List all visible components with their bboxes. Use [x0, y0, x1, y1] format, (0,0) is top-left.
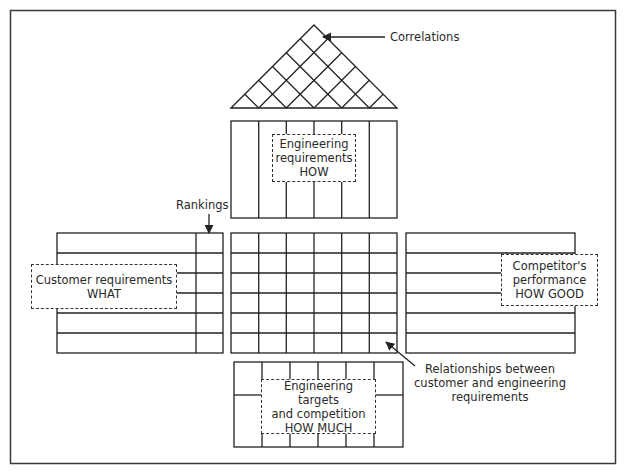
engineering-targets-line-1: Engineering targets [262, 379, 375, 407]
customer-requirements-line-2: WHAT [87, 287, 121, 301]
relationship-matrix [231, 233, 397, 353]
relationships-line-3: requirements [410, 390, 570, 404]
house-of-quality-diagram: Correlations Rankings Relationships betw… [0, 0, 626, 472]
relationships-line-1: Relationships between [410, 362, 570, 376]
engineering-requirements-line-3: HOW [299, 165, 328, 179]
customer-requirements-line-1: Customer requirements [36, 273, 172, 287]
engineering-requirements-line-2: requirements [276, 151, 353, 165]
competitors-performance-line-2: performance [513, 273, 587, 287]
engineering-requirements-line-1: Engineering [280, 137, 349, 151]
customer-requirements-box: Customer requirements WHAT [31, 264, 177, 309]
engineering-targets-line-3: HOW MUCH [285, 421, 353, 435]
correlations-label: Correlations [390, 30, 459, 44]
rankings-label: Rankings [176, 198, 229, 212]
engineering-targets-box: Engineering targets and competition HOW … [261, 379, 376, 434]
relationships-label: Relationships between customer and engin… [410, 362, 570, 404]
competitors-performance-line-3: HOW GOOD [515, 287, 584, 301]
engineering-targets-line-2: and competition [272, 407, 366, 421]
relationships-line-2: customer and engineering [410, 376, 570, 390]
engineering-requirements-box: Engineering requirements HOW [272, 134, 356, 182]
competitors-performance-line-1: Competitor's [513, 259, 587, 273]
competitors-performance-box: Competitor's performance HOW GOOD [501, 254, 598, 306]
